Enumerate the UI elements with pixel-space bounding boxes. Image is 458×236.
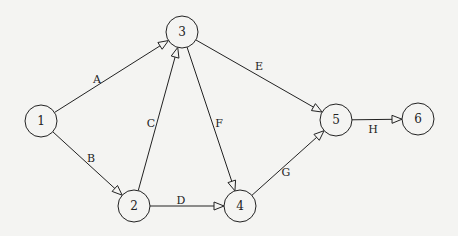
edge-E: E [196, 40, 322, 112]
edge-H: H [352, 115, 402, 136]
node-label: 6 [414, 112, 422, 126]
network-diagram: ABCDEFGH 123456 [0, 0, 458, 236]
edge-C: C [138, 47, 179, 190]
node-label: 5 [332, 113, 340, 127]
edge-label: A [92, 73, 102, 86]
node-5: 5 [320, 104, 352, 136]
edge-G: G [252, 131, 324, 196]
arrowhead-icon [392, 115, 402, 123]
node-label: 4 [236, 199, 244, 213]
edge-label: E [255, 60, 263, 73]
node-label: 1 [37, 114, 45, 128]
node-1: 1 [25, 105, 57, 137]
node-label: 3 [178, 25, 186, 39]
node-4: 4 [224, 190, 256, 222]
arrowhead-icon [228, 180, 236, 191]
node-label: 2 [130, 199, 138, 213]
edge-line [196, 40, 320, 111]
arrowhead-icon [158, 41, 169, 50]
edge-label: F [215, 117, 223, 130]
edge-line [55, 42, 167, 113]
arrowhead-icon [311, 104, 322, 112]
edge-A: A [55, 41, 169, 113]
node-3: 3 [166, 16, 198, 48]
edge-B: B [53, 132, 122, 195]
arrowhead-icon [214, 202, 224, 210]
diagram-svg: ABCDEFGH 123456 [0, 0, 458, 236]
edge-label: D [177, 194, 186, 207]
nodes-layer: 123456 [25, 16, 434, 222]
edge-D: D [150, 194, 224, 210]
edge-label: C [147, 117, 155, 130]
node-6: 6 [402, 103, 434, 135]
edge-label: H [368, 123, 378, 136]
arrowhead-icon [171, 47, 179, 58]
edge-line [252, 132, 323, 195]
edge-line [138, 49, 177, 190]
node-2: 2 [118, 190, 150, 222]
edge-label: B [87, 152, 95, 165]
edge-line [187, 47, 234, 189]
edge-label: G [282, 166, 291, 179]
edge-F: F [187, 47, 236, 191]
